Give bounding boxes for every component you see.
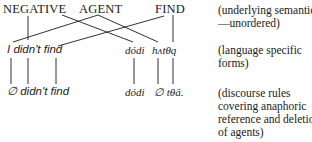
discourse-native-dodi: dódi xyxy=(125,87,145,98)
line-negative-to-dodi xyxy=(62,15,133,42)
annotation-discourse: (discourse rules covering anaphoric refe… xyxy=(218,87,312,139)
semantic-find: FIND xyxy=(155,3,185,16)
annotation-forms: (language specific forms) xyxy=(218,44,302,70)
annotation-semantics: (underlying semantics —unordered) xyxy=(218,4,312,30)
form-english: I didn't find xyxy=(7,44,62,56)
discourse-native-tthq: ∅ tθä. xyxy=(154,87,183,98)
semantic-negative: NEGATIVE xyxy=(3,3,66,16)
discourse-english: ∅ didn't find xyxy=(7,86,69,98)
semantic-agent: AGENT xyxy=(79,3,122,16)
form-native-dodi: dódi xyxy=(125,45,145,56)
line-agent-to-hatthq xyxy=(98,15,158,42)
semantic-mapping-diagram: NEGATIVE AGENT FIND I didn't find dódi h… xyxy=(0,0,312,142)
form-native-hatthq: hʌtθq xyxy=(152,45,176,56)
